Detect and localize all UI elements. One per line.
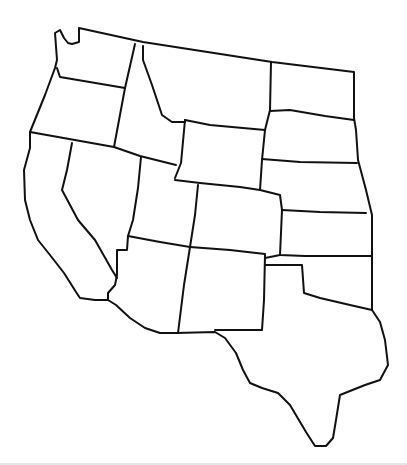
border-ne-ks bbox=[282, 210, 366, 213]
border-az-nm bbox=[178, 247, 190, 333]
outer-boundary bbox=[24, 28, 388, 446]
border-co-nm bbox=[190, 247, 265, 254]
border-nd-sd bbox=[270, 110, 354, 120]
border-ks-ok bbox=[280, 210, 372, 256]
border-nm-tx bbox=[215, 255, 265, 330]
border-mt-nd bbox=[265, 62, 271, 130]
border-wa-or bbox=[57, 68, 125, 88]
border-ut-co bbox=[190, 185, 198, 247]
border-or-ca-nv bbox=[30, 132, 176, 165]
border-nv-ut bbox=[128, 157, 141, 236]
border-or-id bbox=[114, 88, 125, 147]
western-us-outline-map bbox=[0, 0, 407, 465]
border-wy-west bbox=[175, 120, 185, 178]
border-ok-texas bbox=[265, 265, 372, 310]
border-wy-south bbox=[175, 180, 260, 190]
border-sd-ne bbox=[262, 159, 357, 163]
border-wa-id bbox=[125, 44, 135, 88]
border-ne-co bbox=[260, 190, 282, 210]
border-nv-west bbox=[62, 143, 117, 278]
border-id-mt bbox=[143, 46, 185, 122]
border-ok-panhandle bbox=[265, 255, 280, 258]
border-mt-wy bbox=[185, 120, 265, 130]
border-ut-az bbox=[128, 236, 190, 247]
